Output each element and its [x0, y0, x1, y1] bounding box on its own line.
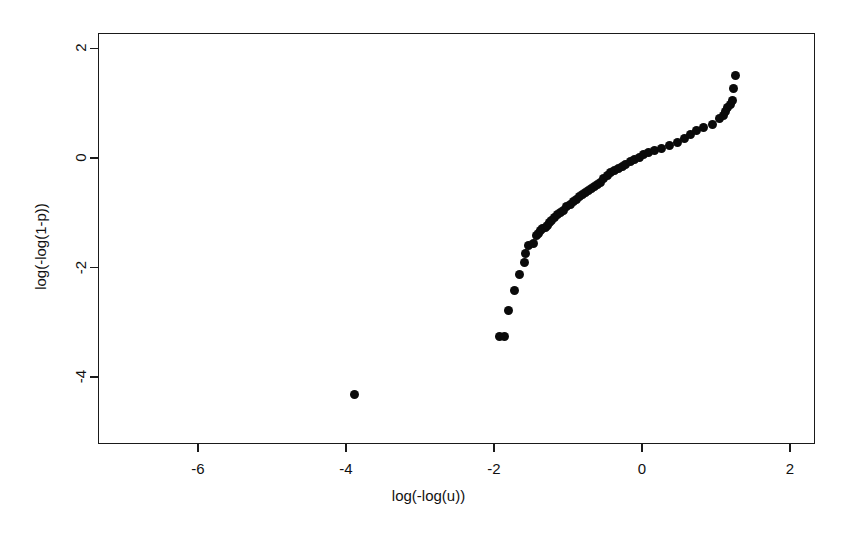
y-axis-tick-label: -2 — [73, 247, 88, 287]
scatter-plot-figure: log(-log(u)) log(-log(1-p)) -6-4-20220-2… — [0, 0, 857, 535]
x-axis-tick — [641, 444, 643, 452]
x-axis-title: log(-log(u)) — [0, 487, 857, 504]
y-axis-tick — [90, 48, 98, 50]
x-axis-tick-label: -4 — [316, 461, 376, 476]
x-axis-tick-label: 0 — [612, 461, 672, 476]
y-axis-tick-label: -4 — [73, 357, 88, 397]
plot-area-frame — [98, 33, 815, 444]
y-axis-tick — [90, 376, 98, 378]
x-axis-tick-label: -6 — [168, 461, 228, 476]
y-axis-title: log(-log(1-p)) — [32, 97, 49, 397]
y-axis-tick-label: 0 — [73, 138, 88, 178]
x-axis-tick — [345, 444, 347, 452]
x-axis-tick-label: 2 — [760, 461, 820, 476]
x-axis-tick-label: -2 — [464, 461, 524, 476]
y-axis-tick — [90, 267, 98, 269]
x-axis-tick — [493, 444, 495, 452]
y-axis-tick — [90, 157, 98, 159]
x-axis-tick — [197, 444, 199, 452]
x-axis-tick — [789, 444, 791, 452]
y-axis-tick-label: 2 — [73, 28, 88, 68]
